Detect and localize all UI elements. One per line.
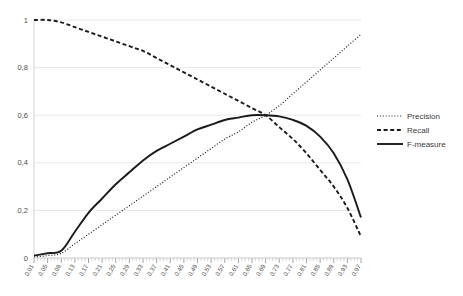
x-axis-tick-label: 0,09 (50, 263, 62, 277)
x-axis-tick-label: 0,45 (173, 263, 185, 277)
x-axis-tick-label: 0,49 (186, 263, 198, 277)
x-axis-tick-label: 0,69 (254, 263, 266, 277)
x-axis-tick-label: 0,01 (23, 263, 35, 277)
x-axis-tick-marks (34, 258, 361, 263)
grid-lines (34, 20, 361, 258)
y-axis-tick-label: 0 (24, 254, 28, 263)
x-axis-tick-label: 0,77 (282, 263, 294, 277)
x-axis-tick-label: 0,81 (295, 263, 307, 277)
x-axis-tick-label: 0,89 (323, 263, 335, 277)
x-axis-tick-label: 0,17 (77, 263, 89, 277)
precision-recall-fmeasure-chart: 00,20,40,60,81 0,010,050,090,130,170,210… (0, 0, 463, 296)
x-axis-tick-label: 0,21 (91, 263, 103, 277)
x-axis-tick-label: 0,93 (336, 263, 348, 277)
y-axis-tick-label: 0,8 (18, 63, 28, 72)
x-axis-tick-label: 0,65 (241, 263, 253, 277)
x-axis-tick-label: 0,33 (132, 263, 144, 277)
series-line-recall (34, 20, 361, 237)
y-axis-tick-label: 0,6 (18, 111, 28, 120)
x-axis-tick-label: 0,61 (227, 263, 239, 277)
x-axis-tick-label: 0,25 (105, 263, 117, 277)
x-axis-tick-label: 0,57 (214, 263, 226, 277)
x-axis-tick-label: 0,37 (145, 263, 157, 277)
y-axis-tick-label: 1 (24, 16, 28, 25)
x-axis-tick-label: 0,41 (159, 263, 171, 277)
x-axis-tick-label: 0,13 (64, 263, 76, 277)
legend-label-precision: Precision (407, 112, 440, 121)
y-axis-tick-label: 0,2 (18, 206, 28, 215)
x-axis-tick-label: 0,73 (268, 263, 280, 277)
x-axis-tick-label: 0,85 (309, 263, 321, 277)
x-axis-tick-label: 0,05 (36, 263, 48, 277)
series-line-f-measure (34, 115, 361, 256)
chart-container: 00,20,40,60,81 0,010,050,090,130,170,210… (0, 0, 463, 296)
axis-lines (34, 20, 361, 258)
data-series (34, 20, 361, 257)
y-axis-tick-labels: 00,20,40,60,81 (18, 16, 28, 263)
chart-legend: PrecisionRecallF-measure (377, 112, 446, 149)
x-axis-tick-label: 0,97 (350, 263, 362, 277)
legend-label-f-measure: F-measure (407, 140, 446, 149)
legend-label-recall: Recall (407, 126, 429, 135)
x-axis-tick-label: 0,53 (200, 263, 212, 277)
y-axis-tick-label: 0,4 (18, 158, 28, 167)
x-axis-tick-label: 0,29 (118, 263, 130, 277)
x-axis-tick-labels: 0,010,050,090,130,170,210,250,290,330,37… (23, 263, 362, 277)
